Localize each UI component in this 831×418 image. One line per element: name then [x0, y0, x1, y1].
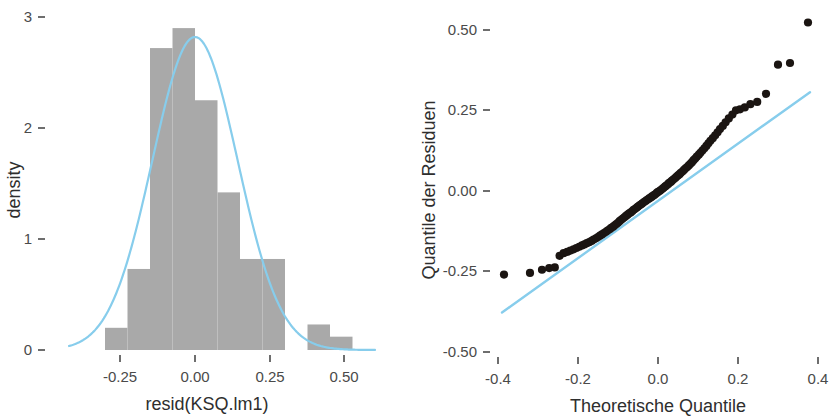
histogram-y-tick-label-3: 3: [24, 8, 32, 25]
histogram-y-tick-label-0: 0: [24, 341, 32, 358]
qq-point: [774, 61, 782, 69]
qq-point: [804, 18, 812, 26]
qq-x-tick-label-4: 0.4: [808, 370, 829, 387]
qq-svg: 0.50 0.25 0.00 -0.25 -0.50 Quantile der …: [415, 0, 831, 418]
histogram-x-tick-label-3: 0.50: [329, 368, 358, 385]
figure-panel-pair: 3 2 1 0 density -0.25 0.00 0.25 0.50: [0, 0, 831, 418]
qq-point: [500, 270, 508, 278]
histogram-bar: [240, 259, 263, 350]
histogram-y-axis-title: density: [4, 161, 24, 218]
qq-x-tick-label-2: 0.0: [648, 370, 669, 387]
histogram-bar: [218, 192, 241, 350]
qq-x-tick-label-3: 0.2: [728, 370, 749, 387]
histogram-bar: [173, 28, 196, 350]
qq-y-tick-label-1: -0.25: [443, 262, 477, 279]
histogram-y-tick-label-2: 2: [24, 119, 32, 136]
qq-x-ticks: [498, 357, 818, 364]
qq-y-tick-label-3: 0.25: [448, 101, 477, 118]
histogram-bars: [105, 28, 353, 350]
qq-y-tick-label-4: 0.50: [448, 21, 477, 38]
qq-point: [762, 90, 770, 98]
histogram-bar: [105, 328, 128, 350]
histogram-x-ticks: [120, 355, 344, 362]
qq-point: [526, 269, 534, 277]
qq-x-tick-label-0: -0.4: [485, 370, 511, 387]
histogram-bar: [128, 269, 151, 350]
histogram-bar: [195, 100, 218, 350]
qq-y-axis-title: Quantile der Residuen: [419, 100, 439, 279]
histogram-x-tick-label-2: 0.25: [255, 368, 284, 385]
histogram-panel: 3 2 1 0 density -0.25 0.00 0.25 0.50: [0, 0, 415, 418]
histogram-x-tick-label-1: 0.00: [180, 368, 209, 385]
qq-point: [753, 98, 761, 106]
qq-y-tick-label-0: -0.50: [443, 343, 477, 360]
qq-reference-line: [502, 92, 810, 312]
qq-point: [786, 59, 794, 67]
qq-x-axis-title: Theoretische Quantile: [570, 396, 746, 416]
qq-y-ticks: [483, 30, 490, 352]
qq-data-points: [500, 18, 812, 278]
qq-point: [538, 266, 546, 274]
histogram-x-axis-title: resid(KSQ.lm1): [145, 394, 268, 414]
histogram-svg: 3 2 1 0 density -0.25 0.00 0.25 0.50: [0, 0, 415, 418]
qq-point: [551, 263, 559, 271]
qq-plot-panel: 0.50 0.25 0.00 -0.25 -0.50 Quantile der …: [415, 0, 831, 418]
qq-x-tick-label-1: -0.2: [565, 370, 591, 387]
histogram-y-tick-label-1: 1: [24, 230, 32, 247]
histogram-x-tick-label-0: -0.25: [103, 368, 137, 385]
histogram-y-ticks: [38, 17, 45, 350]
qq-y-tick-label-2: 0.00: [448, 182, 477, 199]
